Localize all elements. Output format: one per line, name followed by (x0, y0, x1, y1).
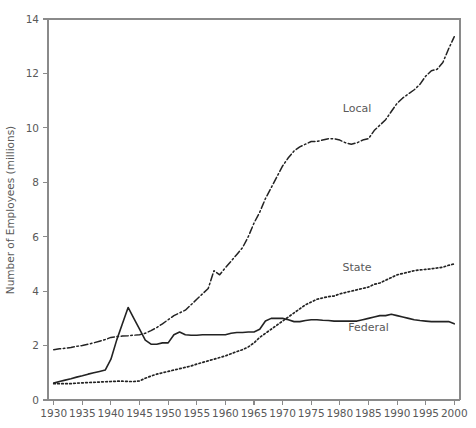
x-tick-label: 1965 (241, 407, 268, 419)
series-label-local: Local (343, 102, 372, 115)
x-tick-label: 1975 (298, 407, 325, 419)
series-line-federal (54, 307, 455, 383)
plot-frame-left-bottom (48, 19, 460, 400)
axes (48, 19, 460, 400)
series-label-federal: Federal (348, 321, 389, 334)
x-tick-label: 1995 (412, 407, 439, 419)
plot-frame-top-right (48, 19, 460, 400)
y-tick-label: 2 (32, 339, 39, 351)
y-tick-label: 12 (26, 67, 39, 79)
x-tick-label: 1935 (69, 407, 96, 419)
x-tick-label: 1985 (355, 407, 382, 419)
y-tick-label: 6 (32, 231, 39, 243)
series-labels: LocalStateFederal (342, 102, 388, 334)
x-tick-label: 1970 (269, 407, 296, 419)
x-tick-label: 1990 (384, 407, 411, 419)
y-tick-label: 4 (32, 285, 39, 297)
x-tick-label: 1930 (40, 407, 67, 419)
chart-container: 0246810121419301935194019451950195519601… (0, 0, 476, 428)
line-chart: 0246810121419301935194019451950195519601… (0, 0, 476, 428)
series-label-state: State (342, 261, 371, 274)
x-tick-label: 1955 (183, 407, 210, 419)
series-line-local (54, 37, 455, 350)
x-tick-label: 1960 (212, 407, 239, 419)
axis-tick-labels: 0246810121419301935194019451950195519601… (26, 13, 468, 419)
y-tick-label: 8 (32, 176, 39, 188)
x-tick-label: 1945 (126, 407, 153, 419)
y-tick-label: 14 (26, 13, 40, 25)
x-tick-label: 2000 (441, 407, 468, 419)
x-tick-label: 1980 (326, 407, 353, 419)
y-axis-title: Number of Employees (millions) (4, 126, 16, 294)
data-series (54, 37, 455, 384)
y-tick-label: 10 (26, 122, 39, 134)
series-line-state (54, 264, 455, 384)
x-tick-label: 1940 (98, 407, 125, 419)
x-tick-label: 1950 (155, 407, 182, 419)
y-tick-label: 0 (32, 394, 39, 406)
